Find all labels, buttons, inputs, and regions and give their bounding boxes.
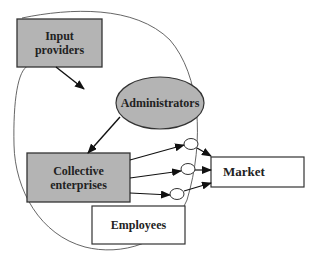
collective-enterprises-line1: Collective: [53, 164, 104, 178]
employees-label: Employees: [92, 206, 185, 244]
junction-1: [184, 139, 198, 150]
arrow-collective-to-junction-1: [130, 145, 184, 160]
arrow-junction-1-to-market: [197, 148, 211, 156]
arrow-input-to-admin: [56, 67, 84, 89]
arrow-collective-to-junction-3: [130, 193, 170, 195]
arrow-junction-3-to-market: [184, 183, 211, 191]
input-providers-line2: providers: [35, 43, 84, 57]
arrow-admin-to-collective: [88, 117, 120, 153]
input-providers-label: Input providers: [17, 19, 102, 67]
input-providers-line1: Input: [45, 29, 74, 43]
junction-2: [181, 164, 195, 175]
junction-3: [170, 189, 184, 200]
market-label: Market: [211, 157, 277, 187]
arrow-collective-to-junction-2: [130, 171, 181, 178]
collective-enterprises-label: Collective enterprises: [27, 153, 130, 202]
administrators-label: Administrators: [116, 95, 204, 111]
collective-enterprises-line2: enterprises: [50, 178, 107, 192]
